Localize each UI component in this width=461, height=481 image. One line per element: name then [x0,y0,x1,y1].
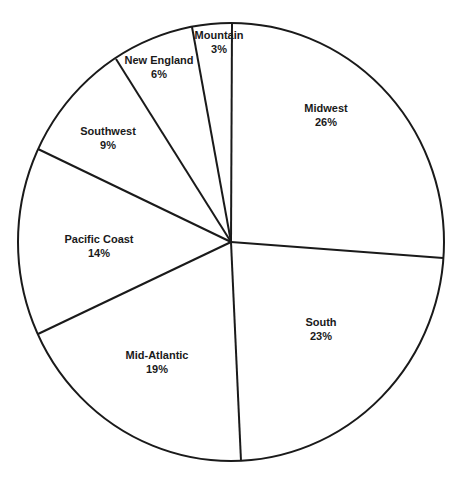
slice-name: Mountain [195,28,244,42]
slice-label-mid-atlantic: Mid-Atlantic 19% [126,348,189,376]
slice-label-midwest: Midwest 26% [304,101,347,129]
slice-name: South [305,315,336,329]
slice-percent: 19% [126,362,189,376]
slice-percent: 23% [305,329,336,343]
slice-percent: 14% [64,246,133,260]
slice-label-new-england: New England 6% [124,53,193,81]
slice-name: New England [124,53,193,67]
slice-name: Southwest [80,124,136,138]
slice-percent: 9% [80,138,136,152]
slice-name: Mid-Atlantic [126,348,189,362]
slice-label-south: South 23% [305,315,336,343]
slice-label-pacific-coast: Pacific Coast 14% [64,232,133,260]
slice-percent: 3% [195,42,244,56]
slice-label-mountain-text: Mountain 3% [195,28,244,56]
slice-percent: 6% [124,67,193,81]
slice-name: Midwest [304,101,347,115]
slice-label-southwest: Southwest 9% [80,124,136,152]
slice-percent: 26% [304,115,347,129]
slice-name: Pacific Coast [64,232,133,246]
